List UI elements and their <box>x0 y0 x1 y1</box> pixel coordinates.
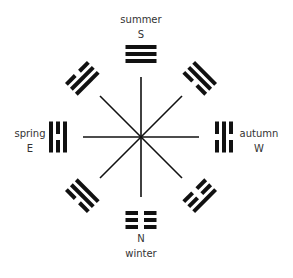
trigram-n <box>126 211 157 229</box>
trigram-ne <box>182 61 217 96</box>
yin-line-segment <box>56 140 60 153</box>
compass-spokes <box>83 77 199 197</box>
label-summer: summer <box>111 14 171 26</box>
trigram-e <box>49 122 67 153</box>
trigram-w <box>215 122 233 153</box>
yin-line-segment <box>126 225 139 229</box>
yang-line <box>126 52 157 56</box>
yang-line <box>126 45 157 49</box>
label-west: W <box>234 143 284 155</box>
label-spring: spring <box>10 128 50 140</box>
yin-line-segment <box>215 122 219 135</box>
yang-line <box>126 59 157 63</box>
yin-line-segment <box>144 225 157 229</box>
yin-line-segment <box>144 218 157 222</box>
yin-line-segment <box>229 122 233 135</box>
label-autumn: autumn <box>234 128 284 140</box>
yin-line-segment <box>144 211 157 215</box>
label-winter: winter <box>111 248 171 260</box>
label-south: S <box>111 29 171 41</box>
yin-line-segment <box>126 211 139 215</box>
yin-line-segment <box>126 218 139 222</box>
trigram-sw <box>65 178 100 213</box>
bagua-diagram: summer S N winter spring E autumn W <box>0 0 293 278</box>
yang-line <box>63 122 67 153</box>
trigram-s <box>126 45 157 63</box>
yin-line-segment <box>229 140 233 153</box>
trigram-nw <box>65 61 100 96</box>
label-north: N <box>111 233 171 245</box>
yin-line-segment <box>215 140 219 153</box>
yang-line <box>222 122 226 153</box>
yin-line-segment <box>56 122 60 135</box>
trigram-se <box>182 178 217 213</box>
label-east: E <box>10 143 50 155</box>
